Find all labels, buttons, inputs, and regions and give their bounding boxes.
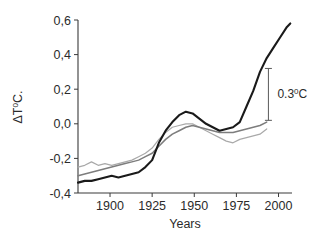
x-tick-label: 1900 xyxy=(96,199,124,213)
y-axis-title-unit: C. xyxy=(11,91,25,104)
x-tick-label: 1975 xyxy=(222,199,250,213)
chart-figure: -0,4-0,20,00,20,40,6 1900192519501975200… xyxy=(0,0,312,244)
y-tick-label: 0,4 xyxy=(54,48,71,62)
y-tick-label: 0,0 xyxy=(54,117,71,131)
y-tick-label: 0,2 xyxy=(54,83,71,97)
y-tick-label: -0,2 xyxy=(49,152,71,166)
y-tick-label: -0,4 xyxy=(49,187,71,201)
annotation-value: 0.3 xyxy=(277,87,294,101)
x-tick-label: 2000 xyxy=(265,199,293,213)
x-tick-label: 1950 xyxy=(180,199,208,213)
temperature-anomaly-line-chart: -0,4-0,20,00,20,40,6 1900192519501975200… xyxy=(0,0,312,244)
y-axis-title-main: ΔT xyxy=(11,107,25,123)
x-tick-label: 1925 xyxy=(138,199,166,213)
y-tick-label: 0,6 xyxy=(54,14,71,28)
annotation-unit: C xyxy=(299,87,308,101)
annotation-label: 0.30C xyxy=(277,87,307,101)
x-axis-title: Years xyxy=(169,217,201,231)
